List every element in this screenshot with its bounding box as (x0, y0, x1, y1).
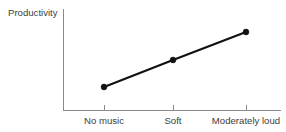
productivity-line-chart: Productivity No music Soft Moderately lo… (0, 0, 286, 132)
chart-background (0, 0, 286, 132)
y-axis-label: Productivity (8, 7, 58, 18)
data-point-soft (170, 57, 176, 63)
data-point-no-music (101, 84, 107, 90)
x-tick-label-no-music: No music (84, 115, 124, 126)
x-tick-label-moderately-loud: Moderately loud (212, 115, 280, 126)
x-tick-label-soft: Soft (164, 115, 181, 126)
data-point-moderately-loud (243, 29, 249, 35)
chart-container: Productivity No music Soft Moderately lo… (0, 0, 286, 132)
